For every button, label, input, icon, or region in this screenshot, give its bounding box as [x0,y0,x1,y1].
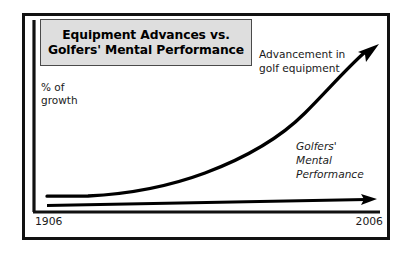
y-axis-label-line-1: % of [41,81,78,94]
annotation-golfers-line-3: Performance [296,168,364,182]
annotation-golfers-line-1: Golfers' [296,140,364,154]
annotation-equipment-line-1: Advancement in [259,48,345,62]
annotation-golfers-line-2: Mental [296,154,364,168]
annotation-advancement-in-golf-equipment: Advancement in golf equipment [259,48,345,76]
y-axis-label-line-2: growth [41,94,78,107]
annotation-golfers-mental-performance: Golfers' Mental Performance [296,140,364,182]
x-axis-tick-label-start: 1906 [35,215,62,228]
chart-title-line-1: Equipment Advances vs. [62,28,229,43]
x-axis-tick-label-end: 2006 [356,215,383,228]
chart-figure: Equipment Advances vs. Golfers' Mental P… [0,0,411,258]
annotation-equipment-line-2: golf equipment [259,62,345,76]
y-axis-label: % of growth [41,81,78,108]
chart-title-box: Equipment Advances vs. Golfers' Mental P… [40,19,252,66]
chart-title-line-2: Golfers' Mental Performance [48,43,244,58]
